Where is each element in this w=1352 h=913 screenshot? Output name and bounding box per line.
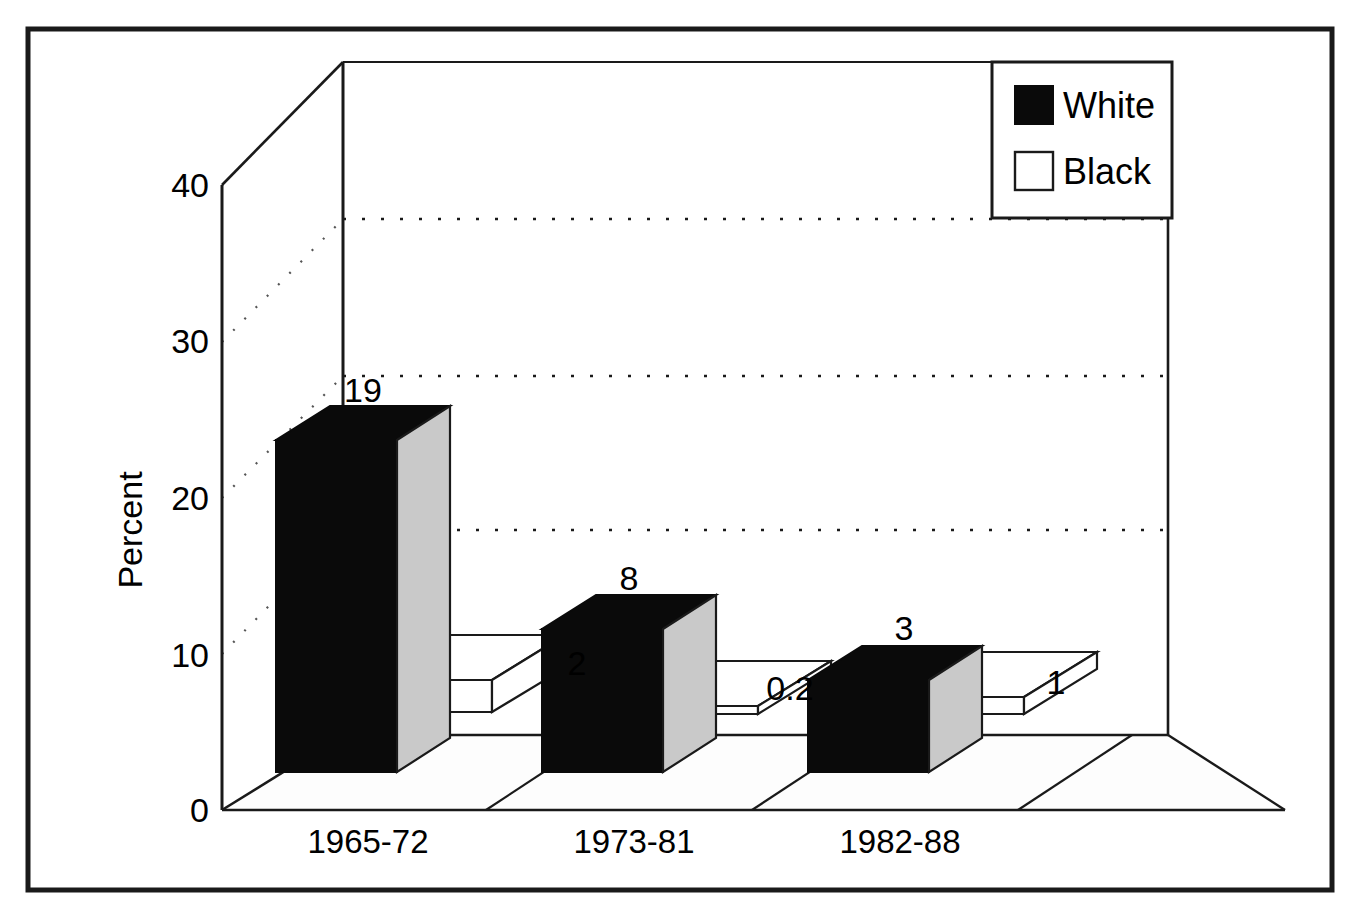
y-tick-label-10: 10: [171, 636, 209, 674]
legend-label-white: White: [1063, 85, 1155, 126]
value-label-1973-81-white: 8: [620, 559, 639, 597]
value-label-1973-81-black: 0.2: [766, 669, 813, 707]
y-tick-label-30: 30: [171, 322, 209, 360]
chart-legend: White Black: [992, 62, 1172, 218]
chart-figure: 19 2 8 0.2 3 1 40 30 20 10 0 Percent 196…: [0, 0, 1352, 913]
bar-chart-svg: 19 2 8 0.2 3 1 40 30 20 10 0 Percent 196…: [0, 0, 1352, 913]
y-tick-label-20: 20: [171, 479, 209, 517]
legend-swatch-black-series: [1015, 152, 1053, 190]
legend-swatch-white-series: [1015, 86, 1053, 124]
value-label-1965-72-white: 19: [344, 371, 382, 409]
x-category-label-2: 1973-81: [573, 823, 694, 860]
legend-label-black: Black: [1063, 151, 1152, 192]
y-axis-title: Percent: [111, 471, 149, 589]
bar-side-face: [397, 406, 450, 772]
value-label-1982-88-black: 1: [1047, 663, 1066, 701]
bar-front-face: [808, 680, 929, 772]
bar-1973-81-white[interactable]: [542, 595, 716, 772]
x-category-label-1: 1965-72: [307, 823, 428, 860]
bar-front-face: [276, 440, 397, 772]
bar-1965-72-white[interactable]: [276, 406, 450, 772]
value-label-1982-88-white: 3: [895, 609, 914, 647]
x-category-label-3: 1982-88: [839, 823, 960, 860]
y-tick-label-0: 0: [190, 791, 209, 829]
bar-front-face: [542, 629, 663, 772]
y-tick-label-40: 40: [171, 166, 209, 204]
value-label-1965-72-black: 2: [568, 644, 587, 682]
bar-1982-88-white[interactable]: [808, 646, 982, 772]
